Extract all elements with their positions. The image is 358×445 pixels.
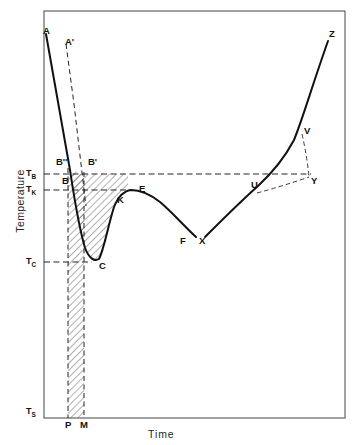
- dashed-V-to-Y: [302, 134, 309, 177]
- x-tick-label-M: M: [80, 420, 88, 430]
- y-tick-label-TC: TC: [26, 257, 36, 268]
- x-axis-title: Time: [148, 428, 175, 440]
- point-label-U: U: [251, 180, 258, 190]
- y-axis-title: Temperature: [14, 151, 26, 251]
- y-tick-label-TS: TS: [26, 407, 36, 418]
- point-label-V: V: [304, 126, 310, 136]
- point-label-X: X: [199, 236, 205, 246]
- point-label-B: B: [62, 176, 69, 186]
- point-label-Y: Y: [311, 176, 317, 186]
- point-label-A-prime: A': [65, 37, 74, 47]
- point-label-K: K: [117, 195, 124, 205]
- point-label-A: A: [43, 26, 50, 36]
- y-tick-label-TK: TK: [26, 185, 36, 196]
- point-label-Z: Z: [329, 29, 335, 39]
- thermal-analysis-cooling-curve-figure: [0, 0, 358, 445]
- y-tick-label-TB: TB: [26, 169, 36, 180]
- x-tick-label-P: P: [65, 420, 71, 430]
- point-label-C: C: [99, 261, 106, 271]
- hatched-undercooling-upper-lobe: [86, 174, 128, 190]
- point-label-B-double-prime: B'': [56, 157, 67, 167]
- heating-curve-X-U-V-Z: [205, 41, 328, 237]
- point-label-B-prime: B': [88, 157, 97, 167]
- point-label-E: E: [139, 184, 145, 194]
- point-label-F: F: [180, 236, 186, 246]
